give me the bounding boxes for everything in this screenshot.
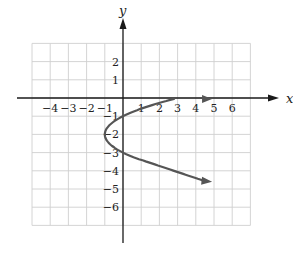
- y-tick-label: 1: [112, 74, 119, 87]
- grid: [32, 43, 250, 225]
- x-tick-label: 4: [192, 102, 199, 115]
- y-tick-label: −6: [103, 201, 119, 214]
- x-axis-label: x: [286, 91, 293, 106]
- x-tick-label: −3: [60, 102, 76, 115]
- y-axis-arrow-icon: [120, 18, 127, 29]
- y-tick-label: −4: [103, 165, 119, 178]
- y-tick-label: −5: [103, 183, 119, 196]
- x-tick-label: 3: [174, 102, 181, 115]
- x-tick-label: −2: [78, 102, 94, 115]
- x-tick-label: 6: [229, 102, 236, 115]
- curve-arrow-lower-icon: [201, 177, 212, 185]
- y-tick-label: 2: [112, 56, 119, 69]
- coordinate-plane: x y −4−3−2−112345621−1−2−3−4−5−6: [0, 0, 293, 255]
- y-axis-label: y: [118, 3, 127, 18]
- x-tick-label: −4: [42, 102, 58, 115]
- y-tick-label: −1: [103, 110, 119, 123]
- parabola-path: [105, 99, 203, 181]
- x-tick-label: 5: [211, 102, 218, 115]
- x-axis-arrow-icon: [268, 95, 279, 102]
